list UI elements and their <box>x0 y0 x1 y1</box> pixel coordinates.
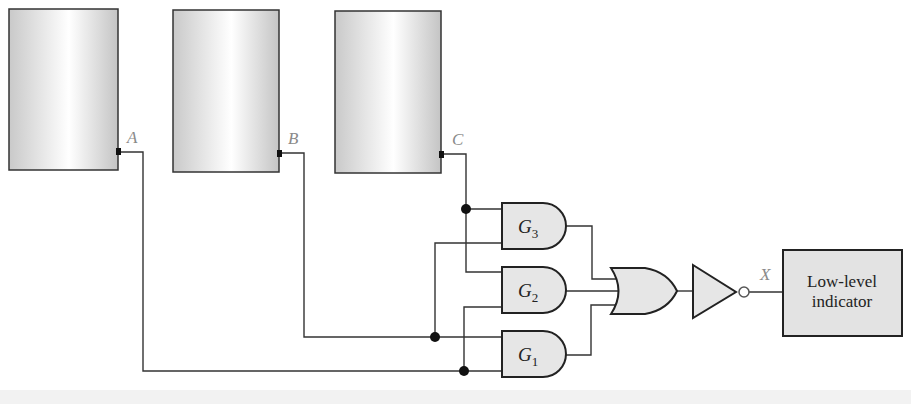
indicator-line2: indicator <box>812 292 873 311</box>
gate-g3-subscript: 3 <box>532 226 539 241</box>
gate-g2-label: G <box>518 280 532 301</box>
tank-c-label: C <box>452 130 464 149</box>
gate-g1-subscript: 1 <box>532 354 539 369</box>
wire-b-g3 <box>435 243 502 337</box>
tank-c: C <box>335 11 464 173</box>
sensor-b-icon <box>277 150 282 157</box>
inverter-gate <box>693 265 749 318</box>
gate-g1-label: G <box>518 344 532 365</box>
junction-c <box>461 204 471 214</box>
gate-g3-label: G <box>518 216 532 237</box>
wire-c <box>444 154 502 272</box>
low-level-indicator: Low-level indicator <box>783 250 902 336</box>
wire-a <box>121 152 502 371</box>
wire-g1-or <box>566 305 617 355</box>
logic-circuit-diagram: A B C <box>0 0 911 404</box>
tank-a: A <box>9 9 138 170</box>
wires <box>121 152 783 371</box>
gate-g2-subscript: 2 <box>532 290 539 305</box>
indicator-line1: Low-level <box>807 272 877 291</box>
junction-a <box>459 366 469 376</box>
output-x-label: X <box>759 265 771 284</box>
sensor-c-icon <box>439 151 444 158</box>
or-gate <box>611 268 677 314</box>
tank-a-label: A <box>126 128 138 147</box>
junctions <box>430 204 471 376</box>
inversion-bubble-icon <box>739 287 749 297</box>
tank-b: B <box>173 10 299 172</box>
and-gate-g1: G1 <box>502 331 566 377</box>
wire-a-g2 <box>464 307 502 371</box>
wire-g3-or <box>566 226 617 279</box>
junction-b <box>430 332 440 342</box>
and-gate-g2: G2 <box>502 267 566 313</box>
and-gate-g3: G3 <box>502 203 566 249</box>
wire-b <box>282 153 502 337</box>
bottom-strip <box>0 390 911 404</box>
sensor-a-icon <box>116 148 121 155</box>
tank-b-label: B <box>288 129 299 148</box>
